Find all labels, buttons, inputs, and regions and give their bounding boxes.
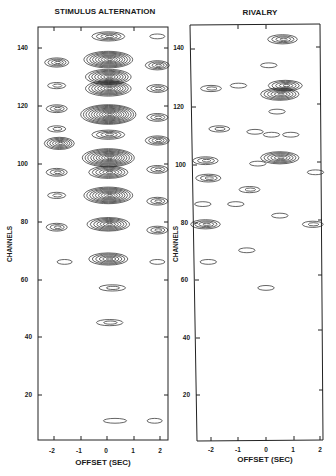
left-contours [44,32,169,423]
right-plot-frame [190,24,323,441]
right-contours [191,35,324,291]
contour-plots [0,0,336,476]
